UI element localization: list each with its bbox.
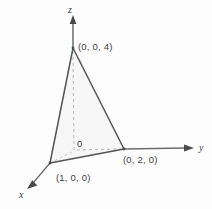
vertex-apex-dot — [72, 47, 75, 50]
y-axis-line — [124, 148, 186, 149]
x-axis-label: x — [19, 190, 23, 200]
point-label-0-2-0: (0, 2, 0) — [123, 155, 158, 165]
origin-label: 0 — [77, 139, 82, 149]
point-label-0-0-4: (0, 0, 4) — [78, 42, 113, 52]
x-axis-arrowhead-icon — [27, 180, 37, 189]
vertex-y-point-dot — [123, 148, 126, 151]
y-axis-label: y — [199, 143, 203, 153]
figure-3d-tetrahedron: z y x 0 (0, 0, 4) (0, 2, 0) (1, 0, 0) — [0, 0, 212, 209]
z-axis-label: z — [68, 5, 72, 15]
point-label-1-0-0: (1, 0, 0) — [56, 173, 91, 183]
y-axis-arrowhead-icon — [184, 144, 194, 151]
x-axis-line — [33, 163, 50, 183]
diagram-canvas — [0, 0, 212, 209]
vertex-x-point-dot — [49, 162, 52, 165]
figure-caption-clipped — [0, 202, 212, 209]
z-axis-arrowhead-icon — [70, 15, 77, 24]
